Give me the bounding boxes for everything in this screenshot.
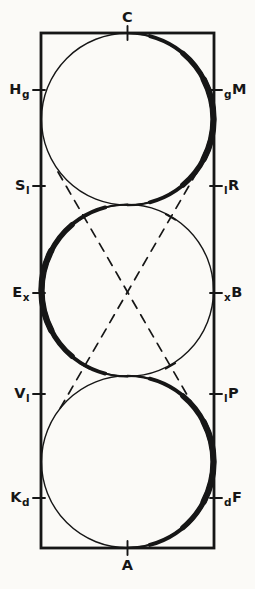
label-bottom-a: A	[103, 558, 152, 573]
label-left-kd: K d	[10, 490, 30, 508]
arc-taper-layer	[183, 396, 214, 528]
label-main: B	[231, 285, 243, 300]
arc-taper-layer	[204, 80, 214, 159]
label-main: H	[9, 82, 22, 97]
arc-taper-layer	[183, 53, 214, 185]
arc-taper-layer	[41, 225, 72, 357]
label-main: E	[12, 285, 22, 300]
arc-taper-layer	[204, 422, 214, 501]
ink-group	[33, 26, 222, 555]
label-right-gm: g M	[224, 82, 247, 100]
diagram-canvas	[0, 0, 255, 589]
label-sub: d	[22, 497, 30, 508]
label-left-sl: S l	[15, 178, 30, 196]
arc-taper-layer	[128, 33, 214, 205]
label-sub: x	[23, 292, 30, 303]
label-sub: d	[224, 497, 232, 508]
label-right-lp: l P	[224, 386, 239, 404]
label-text: C	[122, 10, 133, 25]
label-left-vl: V l	[14, 386, 30, 404]
serpentine-arc-bottom	[128, 376, 214, 548]
label-main: S	[15, 178, 26, 193]
serpentine-arc-middle	[41, 205, 127, 377]
arc-taper-layer	[41, 251, 51, 330]
label-sub: l	[26, 185, 30, 196]
arc-taper-layer	[128, 376, 214, 548]
label-text: A	[122, 558, 134, 573]
label-main: V	[14, 386, 26, 401]
label-top-c: C	[103, 10, 152, 25]
label-sub: l	[26, 393, 30, 404]
label-main: F	[232, 490, 242, 505]
label-main: M	[232, 82, 247, 97]
label-right-xb: x B	[224, 285, 243, 303]
label-right-lr: l R	[224, 178, 240, 196]
label-sub: g	[224, 89, 232, 100]
label-right-df: d F	[224, 490, 242, 508]
construction-diagram: C A H g S l E x V l K d g M l R x B l P …	[0, 0, 255, 589]
label-main: K	[10, 490, 22, 505]
label-left-hg: H g	[9, 82, 30, 100]
label-left-ex: E x	[12, 285, 30, 303]
crossing-tick-lower-right	[166, 363, 176, 369]
serpentine-arc-top	[128, 33, 214, 205]
label-sub: x	[224, 292, 231, 303]
label-sub: g	[22, 89, 30, 100]
arc-taper-layer	[150, 379, 214, 545]
label-main: P	[228, 386, 239, 401]
arc-taper-layer	[42, 205, 128, 377]
label-main: R	[228, 178, 240, 193]
arc-taper-layer	[150, 36, 214, 202]
